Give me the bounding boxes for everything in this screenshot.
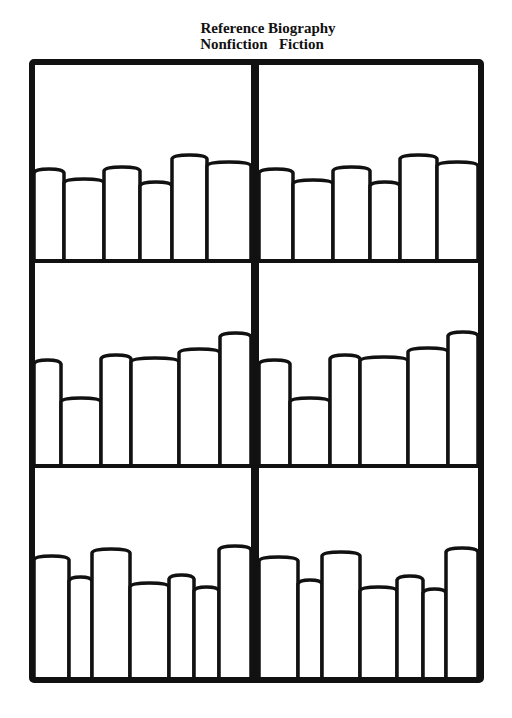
book-row1-right-4: [370, 182, 400, 261]
book-row3-right-6: [423, 589, 446, 679]
book-row2-right-2: [290, 398, 330, 466]
book-row2-left-6: [220, 333, 251, 466]
book-row1-left-4: [140, 182, 172, 261]
book-row2-left-5: [179, 349, 220, 466]
book-row3-left-5: [169, 575, 194, 679]
book-row3-left-7: [219, 546, 251, 679]
book-row2-right-4: [360, 357, 408, 466]
book-row3-right-2: [298, 580, 322, 679]
book-row2-left-1: [34, 360, 61, 466]
book-row3-left-2: [69, 577, 92, 679]
book-row2-left-4: [131, 358, 179, 466]
book-row3-left-1: [34, 556, 69, 679]
book-row3-right-1: [259, 557, 298, 679]
book-row3-right-5: [397, 576, 423, 679]
book-row3-left-3: [92, 549, 130, 679]
center-divider: [251, 62, 259, 680]
book-row1-right-3: [333, 167, 370, 261]
book-row3-left-6: [194, 587, 219, 679]
book-row1-left-6: [207, 162, 251, 261]
book-row2-right-1: [259, 360, 290, 466]
book-row3-right-3: [322, 552, 360, 679]
book-row3-left-4: [130, 583, 169, 679]
book-row2-right-6: [448, 332, 478, 466]
book-row1-left-3: [104, 167, 140, 261]
book-row1-left-2: [64, 179, 104, 261]
bookcase-illustration: [0, 0, 512, 718]
book-row3-right-7: [446, 548, 478, 679]
book-row1-right-6: [437, 162, 478, 261]
book-row2-right-5: [408, 348, 448, 466]
book-row1-right-1: [259, 169, 293, 261]
book-row2-right-3: [330, 355, 360, 466]
book-row3-right-4: [360, 587, 397, 679]
book-row2-left-3: [101, 355, 131, 466]
book-row1-left-1: [34, 169, 64, 261]
book-row1-right-2: [293, 180, 333, 261]
book-row2-left-2: [61, 398, 101, 466]
book-row1-right-5: [400, 155, 437, 261]
book-row1-left-5: [172, 155, 207, 261]
